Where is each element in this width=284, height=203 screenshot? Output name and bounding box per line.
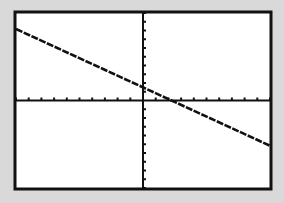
graph-screen <box>0 0 284 203</box>
